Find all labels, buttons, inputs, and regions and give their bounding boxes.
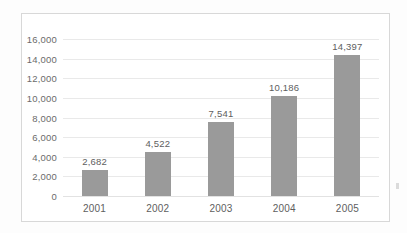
y-axis-tick-label: 10,000 (27, 92, 57, 103)
x-axis-tick-label: 2004 (273, 203, 296, 214)
bar-group: 4,5222002 (126, 39, 189, 196)
bar[interactable] (208, 122, 234, 196)
bars-layer: 2,68220014,52220027,541200310,186200414,… (63, 39, 379, 196)
y-axis-tick-label: 0 (52, 191, 57, 202)
x-axis-tick-label: 2003 (209, 203, 232, 214)
y-axis-tick-label: 4,000 (32, 151, 57, 162)
x-axis-tick-label: 2001 (83, 203, 106, 214)
scan-artifact-speck (396, 183, 399, 189)
chart-frame: 16,00014,00012,00010,0008,0006,0004,0002… (21, 13, 390, 222)
x-axis-tick-label: 2002 (146, 203, 169, 214)
bar-group: 7,5412003 (189, 39, 252, 196)
bar[interactable] (145, 152, 171, 196)
bar[interactable] (334, 55, 360, 196)
y-axis-tick-label: 12,000 (27, 73, 57, 84)
bar-value-label: 4,522 (145, 138, 170, 149)
bar-group: 14,3972005 (316, 39, 379, 196)
gridline (63, 196, 379, 197)
bar-value-label: 14,397 (332, 41, 362, 52)
bar-chart-figure: 16,00014,00012,00010,0008,0006,0004,0002… (0, 0, 407, 233)
bar[interactable] (271, 96, 297, 196)
x-axis-tick-label: 2005 (336, 203, 359, 214)
bar[interactable] (82, 170, 108, 196)
y-axis-tick-label: 16,000 (27, 34, 57, 45)
y-axis-tick-label: 8,000 (32, 112, 57, 123)
y-axis-tick-label: 6,000 (32, 132, 57, 143)
bar-group: 10,1862004 (253, 39, 316, 196)
plot-area: 16,00014,00012,00010,0008,0006,0004,0002… (63, 39, 379, 196)
bar-value-label: 7,541 (209, 108, 234, 119)
bar-value-label: 2,682 (82, 156, 107, 167)
y-axis-tick-label: 2,000 (32, 171, 57, 182)
bar-group: 2,6822001 (63, 39, 126, 196)
bar-value-label: 10,186 (269, 82, 299, 93)
y-axis-tick-label: 14,000 (27, 53, 57, 64)
